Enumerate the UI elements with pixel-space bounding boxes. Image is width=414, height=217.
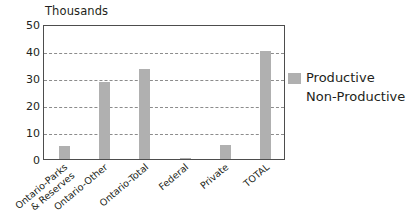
- bar-slot: [165, 26, 205, 159]
- x-axis-tick-label-slot: Ontario-Total: [124, 160, 164, 217]
- x-axis-tick-labels: Ontario-Parks& ReservesOntario-OtherOnta…: [43, 160, 285, 217]
- legend-label: Non-Productive: [306, 89, 405, 105]
- axis-unit-title: Thousands: [45, 4, 108, 18]
- plot-area: [43, 25, 285, 160]
- bar[interactable]: [59, 146, 70, 159]
- x-axis-tick-label: Private: [199, 162, 231, 191]
- bar-slot: [44, 26, 84, 159]
- x-axis-tick-label: TOTAL: [242, 162, 272, 189]
- y-axis-tick-label: 10: [12, 127, 40, 140]
- legend-swatch-icon: [288, 73, 301, 84]
- bar-slot: [246, 26, 286, 159]
- chart-figure: Thousands 01020304050 Ontario-Parks& Res…: [0, 0, 414, 217]
- bar[interactable]: [139, 69, 150, 159]
- x-axis-tick-label-slot: TOTAL: [245, 160, 285, 217]
- bar[interactable]: [260, 51, 271, 159]
- bar[interactable]: [180, 158, 191, 159]
- y-axis-tick-labels: 01020304050: [8, 25, 40, 160]
- legend-label: Productive: [306, 70, 375, 86]
- y-axis-tick-label: 30: [12, 73, 40, 86]
- y-axis-tick-label: 50: [12, 19, 40, 32]
- bar-slot: [84, 26, 124, 159]
- y-axis-tick-label: 0: [12, 154, 40, 167]
- y-axis-tick-label: 40: [12, 46, 40, 59]
- y-axis-tick-label: 20: [12, 100, 40, 113]
- x-axis-tick-label-slot: Federal: [164, 160, 204, 217]
- legend-item[interactable]: Productive: [288, 70, 405, 87]
- chart-legend: ProductiveNon-Productive: [288, 70, 405, 106]
- bar-slot: [205, 26, 245, 159]
- bar[interactable]: [99, 82, 110, 159]
- legend-item[interactable]: Non-Productive: [288, 89, 405, 106]
- bar[interactable]: [220, 145, 231, 159]
- x-axis-tick-label-slot: Private: [204, 160, 244, 217]
- bar-slot: [125, 26, 165, 159]
- plot-inner: [44, 26, 284, 159]
